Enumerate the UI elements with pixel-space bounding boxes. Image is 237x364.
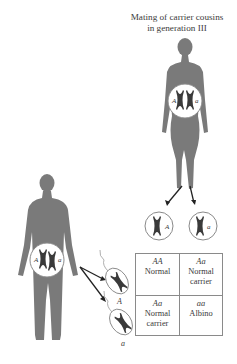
phenotype: Normal: [188, 267, 214, 277]
genotype: AA: [152, 257, 162, 267]
svg-text:a: a: [195, 97, 199, 105]
svg-text:a: a: [207, 223, 211, 231]
phenotype-detail: carrier: [190, 277, 212, 287]
phenotype: Albino: [189, 309, 212, 319]
phenotype: Normal: [145, 309, 171, 319]
sperm-allele-a: a: [121, 339, 125, 348]
svg-text:A: A: [33, 256, 39, 264]
punnett-square: AA Normal Aa Normal carrier Aa Normal ca…: [135, 253, 223, 336]
svg-text:A: A: [164, 223, 170, 231]
egg-a: a: [189, 212, 217, 240]
egg-A: A: [145, 212, 173, 240]
phenotype-detail: carrier: [147, 319, 169, 329]
svg-text:a: a: [58, 256, 62, 264]
punnett-cell-aa: aa Albino: [179, 295, 222, 336]
female-gonad-circle: A a: [168, 84, 202, 118]
genotype: Aa: [153, 299, 162, 309]
phenotype: Normal: [145, 267, 171, 277]
male-gonad-circle: A a: [30, 243, 64, 277]
genotype: aa: [197, 299, 205, 309]
svg-text:A: A: [171, 97, 177, 105]
sperm-A: [100, 250, 133, 298]
genotype: Aa: [196, 257, 205, 267]
punnett-cell-Aa-bottom: Aa Normal carrier: [136, 295, 179, 336]
sperm-allele-A: A: [117, 297, 122, 306]
punnett-cell-Aa-top: Aa Normal carrier: [179, 254, 222, 295]
punnett-cell-AA: AA Normal: [136, 254, 179, 295]
